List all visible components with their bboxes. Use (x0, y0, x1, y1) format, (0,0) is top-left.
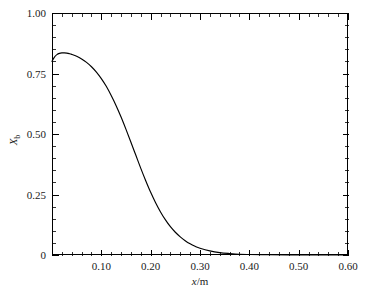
y-tick-label: 1.00 (27, 7, 47, 19)
chart-canvas: 0.100.200.300.400.500.60 00.250.500.751.… (0, 0, 365, 296)
x-tick-label: 0.50 (289, 260, 309, 272)
x-tick-label: 0.20 (141, 260, 161, 272)
x-tick-label: 0.10 (92, 260, 112, 272)
x-axis-title: x/m (191, 275, 209, 287)
svg-text:x/m: x/m (191, 275, 209, 287)
x-tick-label: 0.30 (190, 260, 210, 272)
x-axis-title-unit: m (200, 275, 209, 287)
y-tick-label: 0.25 (27, 189, 47, 201)
y-tick-label: 0.50 (27, 128, 47, 140)
chart-background (0, 0, 365, 296)
x-tick-label: 0.40 (240, 260, 260, 272)
chart-figure: 0.100.200.300.400.500.60 00.250.500.751.… (0, 0, 365, 296)
x-tick-label: 0.60 (338, 260, 358, 272)
y-axis-title-subscript: b (13, 135, 22, 139)
y-tick-label: 0.75 (27, 68, 47, 80)
y-tick-label: 0 (41, 249, 47, 261)
